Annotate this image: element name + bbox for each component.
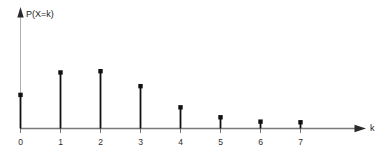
x-axis-label: k <box>370 123 375 133</box>
stem-series <box>18 69 302 128</box>
tick-label: 6 <box>258 137 263 147</box>
tick-label: 3 <box>138 137 143 147</box>
stem-marker <box>138 84 142 88</box>
probability-mass-function-chart: P(X=k) k 0 1 2 3 4 5 6 7 <box>0 0 381 151</box>
x-axis-arrowhead <box>355 125 367 132</box>
tick-label: 1 <box>58 137 63 147</box>
tick-label: 7 <box>298 137 303 147</box>
y-axis-label: P(X=k) <box>26 9 54 19</box>
tick-label: 0 <box>18 137 23 147</box>
stem-marker <box>178 105 182 109</box>
y-axis-arrowhead <box>17 7 23 18</box>
stem-marker <box>18 93 22 97</box>
stem-marker <box>58 70 62 74</box>
stem-plot-figure: P(X=k) k 0 1 2 3 4 5 6 7 <box>0 0 381 151</box>
stem-marker <box>218 115 222 119</box>
stem-marker <box>258 119 262 123</box>
tick-label: 2 <box>98 137 103 147</box>
stem-marker <box>298 120 302 124</box>
stem-marker <box>98 69 102 73</box>
tick-label: 4 <box>178 137 183 147</box>
x-axis-tick-labels: 0 1 2 3 4 5 6 7 <box>18 137 303 147</box>
tick-label: 5 <box>218 137 223 147</box>
